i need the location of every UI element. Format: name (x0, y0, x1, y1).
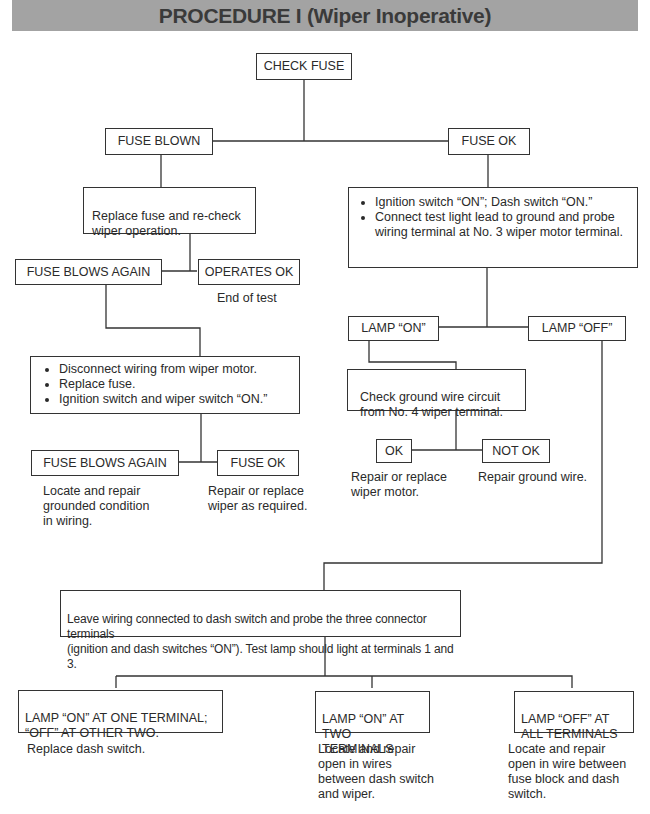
disconnect-wiring-box: Disconnect wiring from wiper motor. Repl… (30, 356, 300, 414)
not-ok-label: NOT OK (492, 444, 540, 459)
operates-ok-note: End of test (217, 291, 277, 306)
fuse-blows-again-box: FUSE BLOWS AGAIN (15, 259, 162, 285)
fuse-ok-2-box: FUSE OK (217, 450, 299, 476)
check-ground-text: Check ground wire circuit from No. 4 wip… (360, 390, 503, 419)
lamp-off-box: LAMP “OFF” (528, 316, 626, 341)
fuse-ok-box: FUSE OK (448, 128, 530, 155)
fuse-blown-label: FUSE BLOWN (118, 134, 201, 149)
lamp-on-label: LAMP “ON” (361, 321, 425, 336)
ok-box: OK (376, 439, 412, 463)
replace-fuse-text: Replace fuse and re-check wiper operatio… (92, 209, 241, 238)
check-fuse-label: CHECK FUSE (264, 59, 345, 74)
fuse-ok-2-note: Repair or replace wiper as required. (208, 484, 307, 514)
fuse-ok-label: FUSE OK (462, 134, 517, 149)
fuse-ok-2-label: FUSE OK (231, 456, 286, 471)
disconnect-step: Ignition switch and wiper switch “ON.” (59, 392, 289, 407)
replace-fuse-box: Replace fuse and re-check wiper operatio… (83, 187, 256, 234)
fuse-blows-again-2-label: FUSE BLOWS AGAIN (43, 456, 167, 471)
lamp-on-two-terminals-note: Locate and repair open in wires between … (318, 742, 434, 802)
lamp-off-all-terminals-label: LAMP “OFF” AT ALL TERMINALS (521, 712, 618, 741)
operates-ok-box: OPERATES OK (198, 259, 300, 285)
fuse-blown-box: FUSE BLOWN (105, 128, 213, 155)
fuse-blows-again-2-box: FUSE BLOWS AGAIN (31, 450, 179, 476)
disconnect-steps-list: Disconnect wiring from wiper motor. Repl… (45, 362, 289, 407)
lamp-on-one-terminal-note: Replace dash switch. (27, 742, 145, 757)
lamp-off-all-terminals-box: LAMP “OFF” AT ALL TERMINALS (514, 691, 634, 733)
ignition-steps-list: Ignition switch “ON”; Dash switch “ON.” … (361, 195, 627, 240)
check-fuse-box: CHECK FUSE (256, 53, 352, 80)
operates-ok-label: OPERATES OK (205, 265, 294, 280)
lamp-on-box: LAMP “ON” (348, 316, 439, 341)
lamp-off-label: LAMP “OFF” (542, 321, 613, 336)
leave-wiring-box: Leave wiring connected to dash switch an… (60, 590, 461, 637)
ignition-step: Connect test light lead to ground and pr… (375, 210, 627, 240)
lamp-on-one-terminal-box: LAMP “ON” AT ONE TERMINAL; “OFF” AT OTHE… (18, 690, 223, 733)
not-ok-box: NOT OK (482, 439, 550, 463)
disconnect-step: Replace fuse. (59, 377, 289, 392)
not-ok-note: Repair ground wire. (478, 470, 587, 485)
ignition-test-box: Ignition switch “ON”; Dash switch “ON.” … (348, 187, 638, 268)
ok-note: Repair or replace wiper motor. (351, 470, 447, 500)
lamp-on-two-terminals-box: LAMP “ON” AT TWO TERMINALS (315, 691, 430, 733)
lamp-off-all-terminals-note: Locate and repair open in wire between f… (508, 742, 626, 802)
check-ground-box: Check ground wire circuit from No. 4 wip… (347, 369, 526, 411)
ignition-step: Ignition switch “ON”; Dash switch “ON.” (375, 195, 627, 210)
disconnect-step: Disconnect wiring from wiper motor. (59, 362, 289, 377)
fuse-blows-again-label: FUSE BLOWS AGAIN (27, 265, 151, 280)
ok-label: OK (385, 444, 403, 459)
fuse-blows-again-2-note: Locate and repair grounded condition in … (43, 484, 149, 529)
